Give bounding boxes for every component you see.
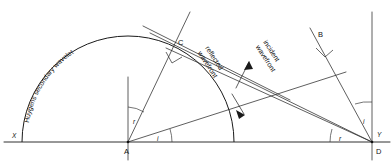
angle-label-i-at-a: i xyxy=(157,135,159,142)
angle-label-r-at-d: r xyxy=(339,135,342,142)
point-label-a: A xyxy=(124,147,129,156)
angle-arc-r-at-a xyxy=(128,107,144,112)
point-label-x: X xyxy=(11,132,17,139)
point-label-b: B xyxy=(318,30,323,39)
point-dot-a xyxy=(127,141,130,144)
incident-wavefront-label-group: incident wavefront xyxy=(254,38,285,73)
reflected-ray-a-through-c xyxy=(128,12,190,142)
huygens-reflection-diagram: Huygens secondary wavelet reflected wave… xyxy=(0,0,392,168)
angle-label-i-at-d: i xyxy=(363,118,365,125)
point-dot-d xyxy=(371,141,374,144)
angle-arc-i-at-a xyxy=(170,129,172,142)
angle-label-r-at-a: r xyxy=(133,118,136,125)
right-angle-marker-at-b xyxy=(316,48,333,57)
angle-arc-i-at-d xyxy=(355,102,372,104)
angle-arc-r-at-d xyxy=(330,129,332,142)
diagram-canvas: Huygens secondary wavelet reflected wave… xyxy=(0,0,392,168)
huygens-secondary-wavelet-label: Huygens secondary wavelet xyxy=(23,48,75,123)
incident-ray-a-to-b xyxy=(128,72,346,142)
point-label-c: C xyxy=(178,38,184,47)
point-label-y: Y xyxy=(377,131,382,138)
point-label-d: D xyxy=(376,147,382,156)
